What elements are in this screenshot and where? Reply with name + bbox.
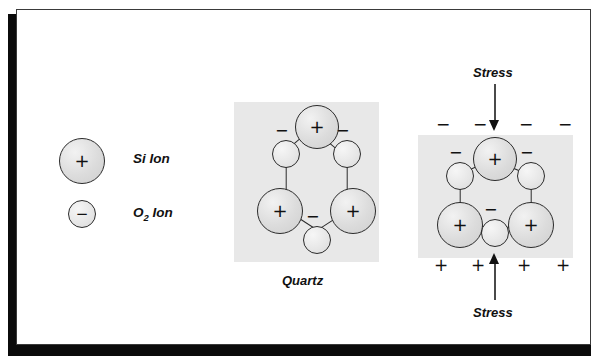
- stress-label-top: Stress: [473, 65, 513, 80]
- stressed-bottom-charge-3: +: [517, 257, 531, 274]
- stressed-ion-o-upper-left: [446, 162, 474, 190]
- stressed-ion-o-bottom-sign: −: [484, 202, 497, 218]
- unstressed-ion-si-top: +: [295, 105, 339, 149]
- figure-frame: + Si Ion − O2 Ion +: [16, 9, 591, 345]
- stressed-bottom-charge-2: +: [471, 257, 485, 274]
- stressed-ion-o-upper-left-sign: −: [449, 145, 462, 161]
- stressed-ion-si-lower-right: +: [508, 202, 554, 248]
- stressed-ion-si-top: +: [473, 137, 517, 181]
- stress-arrow-top-head: [489, 120, 499, 131]
- legend-o2-ion-circle: −: [68, 200, 96, 228]
- legend-si-ion-label: Si Ion: [133, 151, 170, 166]
- stressed-top-charge-2: −: [473, 116, 487, 133]
- stressed-bottom-charge-4: +: [556, 257, 570, 274]
- stressed-bottom-charge-1: +: [434, 257, 448, 274]
- legend-si-ion-circle: +: [59, 138, 105, 184]
- unstressed-ion-si-lower-left: +: [257, 188, 303, 234]
- unstressed-ion-si-top-sign: +: [309, 118, 324, 136]
- legend-o2-ion-label: O2 Ion: [133, 205, 173, 223]
- unstressed-ion-o-upper-right-sign: −: [336, 123, 349, 139]
- stressed-top-charge-4: −: [558, 116, 572, 133]
- stress-arrow-bottom-head: [489, 253, 499, 264]
- stress-label-bottom: Stress: [473, 305, 513, 320]
- stress-arrow-bottom-shaft: [494, 264, 496, 300]
- stressed-ion-o-bottom: [481, 219, 509, 247]
- legend-o2-ion-label-main: O: [133, 205, 144, 220]
- stressed-top-charge-1: −: [436, 116, 450, 133]
- unstressed-ion-o-bottom-sign: −: [306, 209, 319, 225]
- stressed-ion-o-upper-right-sign: −: [520, 145, 533, 161]
- unstressed-ion-o-upper-left-sign: −: [275, 123, 288, 139]
- legend-si-ion-sign: +: [74, 152, 89, 170]
- figure-root: + Si Ion − O2 Ion +: [0, 0, 608, 363]
- stressed-ion-o-upper-right: [517, 162, 545, 190]
- stressed-ion-si-lower-right-sign: +: [523, 216, 538, 234]
- stressed-top-charge-3: −: [519, 116, 533, 133]
- unstressed-ion-o-upper-right: [333, 140, 361, 168]
- unstressed-ion-si-lower-left-sign: +: [272, 202, 287, 220]
- stress-arrow-top-shaft: [494, 84, 496, 123]
- frame-shadow-bottom: [8, 344, 591, 356]
- legend-o2-ion-sign: −: [76, 207, 89, 222]
- stressed-ion-si-lower-left-sign: +: [452, 216, 467, 234]
- unstressed-ion-si-lower-right-sign: +: [345, 202, 360, 220]
- unstressed-ion-si-lower-right: +: [330, 188, 376, 234]
- legend-o2-ion-label-tail: Ion: [149, 205, 173, 220]
- unstressed-caption: Quartz: [282, 273, 323, 288]
- unstressed-ion-o-upper-left: [272, 140, 300, 168]
- unstressed-ion-o-bottom: [303, 226, 331, 254]
- stressed-ion-si-lower-left: +: [437, 202, 483, 248]
- stressed-ion-si-top-sign: +: [487, 150, 502, 168]
